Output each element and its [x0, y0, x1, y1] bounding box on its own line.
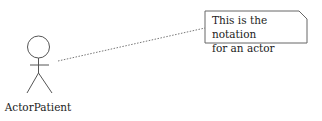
note-line-1: This is the notation [212, 13, 304, 41]
actor-label: ActorPatient [0, 101, 76, 113]
note-connector [58, 28, 205, 61]
note-text: This is the notation for an actor [212, 13, 304, 55]
actor-head [28, 36, 50, 58]
actor-figure[interactable] [27, 36, 52, 93]
actor-right-leg [39, 73, 53, 93]
note-line-2: for an actor [212, 41, 304, 55]
actor-left-leg [27, 73, 39, 93]
